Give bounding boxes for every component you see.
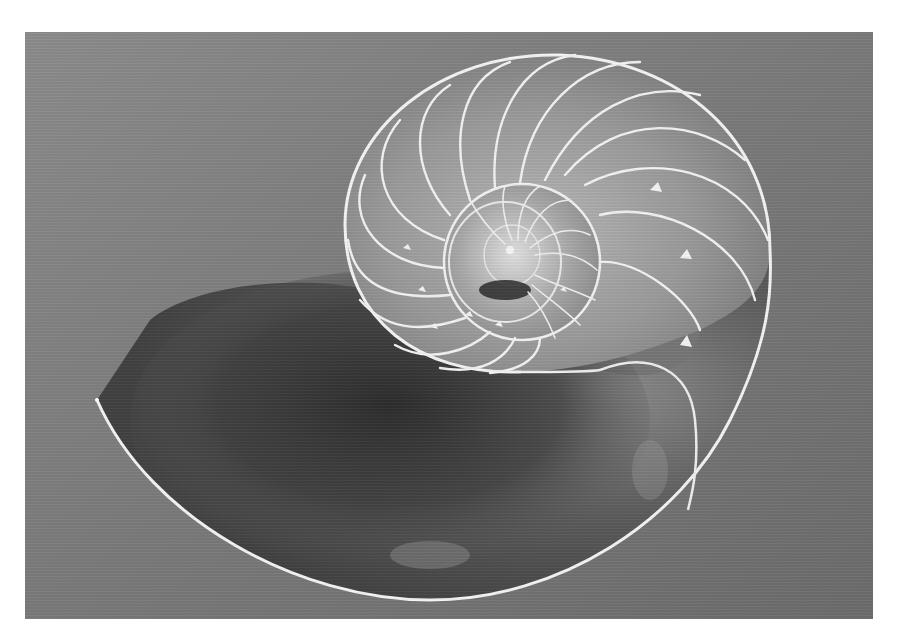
siphuncle-shadow xyxy=(479,280,531,300)
inner-whorl xyxy=(444,184,600,340)
nautilus-shell-illustration xyxy=(25,32,873,619)
nautilus-photo xyxy=(25,32,873,619)
